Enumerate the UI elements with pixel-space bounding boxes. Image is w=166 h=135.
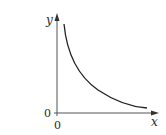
y-axis-label: y [45,13,53,27]
x-axis-label: x [151,115,158,129]
origin-y-tick-label: 0 [44,107,51,120]
graph: y x 0 0 [0,0,166,135]
y-axis-arrow-icon [55,13,60,21]
decay-curve [64,24,147,108]
origin-x-tick-label: 0 [54,119,61,132]
